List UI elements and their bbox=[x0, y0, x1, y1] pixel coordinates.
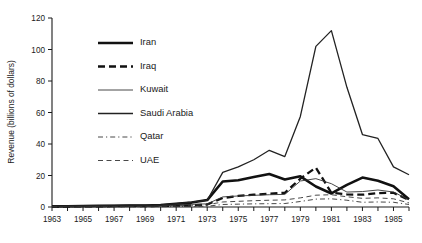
y-axis-group: 020406080100120 Revenue (billions of dol… bbox=[6, 14, 52, 212]
y-tick-label: 100 bbox=[31, 46, 45, 55]
legend-label-uae: UAE bbox=[140, 154, 159, 165]
chart-plot-area: 020406080100120 Revenue (billions of dol… bbox=[0, 0, 422, 243]
x-tick-label: 1969 bbox=[136, 215, 155, 224]
x-axis-group: 1963196519671969197119731975197719791981… bbox=[43, 207, 409, 224]
chart-legend: IranIraqKuwaitSaudi ArabiaQatarUAE bbox=[98, 36, 194, 165]
x-tick-label: 1981 bbox=[322, 215, 341, 224]
legend-label-qatar: Qatar bbox=[140, 130, 163, 141]
x-tick-label: 1967 bbox=[105, 215, 124, 224]
x-tick-label: 1977 bbox=[260, 215, 279, 224]
series-line-iraq bbox=[52, 168, 409, 207]
y-tick-label: 40 bbox=[36, 140, 46, 149]
legend-label-iraq: Iraq bbox=[140, 60, 156, 71]
y-tick-label: 80 bbox=[36, 77, 46, 86]
y-axis-title: Revenue (billions of dollars) bbox=[6, 60, 16, 164]
x-tick-label: 1973 bbox=[198, 215, 217, 224]
y-tick-label: 0 bbox=[40, 203, 45, 212]
x-axis-ticks: 1963196519671969197119731975197719791981… bbox=[43, 207, 409, 224]
y-tick-label: 60 bbox=[36, 109, 46, 118]
x-tick-label: 1985 bbox=[384, 215, 403, 224]
legend-label-kuwait: Kuwait bbox=[140, 83, 169, 94]
x-tick-label: 1983 bbox=[353, 215, 372, 224]
series-line-kuwait bbox=[52, 179, 409, 207]
x-tick-label: 1971 bbox=[167, 215, 186, 224]
x-tick-label: 1965 bbox=[74, 215, 93, 224]
x-tick-label: 1975 bbox=[229, 215, 248, 224]
y-axis-ticks: 020406080100120 bbox=[31, 14, 52, 212]
x-tick-label: 1979 bbox=[291, 215, 310, 224]
y-tick-label: 120 bbox=[31, 14, 45, 23]
y-tick-label: 20 bbox=[36, 172, 46, 181]
legend-label-iran: Iran bbox=[140, 36, 156, 47]
data-series-group bbox=[52, 31, 409, 207]
x-tick-label: 1963 bbox=[43, 215, 62, 224]
legend-label-saudi-arabia: Saudi Arabia bbox=[140, 107, 194, 118]
revenue-line-chart: 020406080100120 Revenue (billions of dol… bbox=[0, 0, 422, 243]
